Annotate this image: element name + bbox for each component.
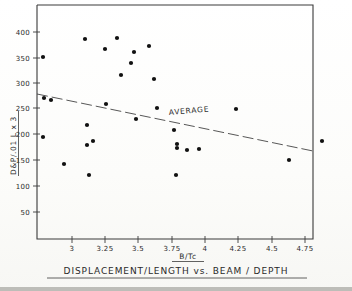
- data-point: [174, 173, 178, 177]
- x-tick-label: 4.75: [297, 245, 314, 253]
- average-trendline: [37, 94, 313, 151]
- x-tick-label: 4.25: [230, 245, 247, 253]
- data-point: [155, 106, 159, 110]
- x-tick-label: 3.25: [97, 245, 114, 253]
- data-point: [147, 44, 151, 48]
- x-tick-label: 3.75: [164, 245, 181, 253]
- data-point: [62, 162, 66, 166]
- y-tick-label: 400: [16, 29, 30, 37]
- chart-frame: [37, 5, 313, 239]
- y-axis-title: D&P/.01 L x 3: [9, 116, 18, 175]
- page-bottom-edge: [0, 287, 352, 291]
- y-tick-label: 100: [16, 183, 30, 191]
- data-point: [115, 36, 119, 40]
- y-tick-label: 250: [16, 105, 30, 113]
- data-point: [49, 98, 53, 102]
- chart-caption: DISPLACEMENT/LENGTH vs. BEAM / DEPTH: [64, 266, 289, 276]
- x-tick-label: 4.5: [266, 245, 278, 253]
- y-tick-label: 300: [16, 80, 30, 88]
- x-axis-title: B/Tc: [179, 252, 197, 261]
- x-tick-label: 4: [203, 245, 208, 253]
- data-point: [85, 123, 89, 127]
- data-point: [104, 102, 108, 106]
- average-label: AVERAGE: [168, 104, 209, 117]
- data-point: [91, 139, 95, 143]
- scanned-page: 400 350 300 250 200 150 100 50 D&P/.01 L…: [0, 0, 352, 291]
- data-point: [287, 158, 291, 162]
- data-point: [87, 173, 91, 177]
- data-point: [41, 55, 45, 59]
- x-tick-label: 3.5: [132, 245, 144, 253]
- data-point: [172, 128, 176, 132]
- data-point: [129, 61, 133, 65]
- y-tick-label: 50: [20, 209, 30, 217]
- data-point: [42, 96, 46, 100]
- chart-caption-group: DISPLACEMENT/LENGTH vs. BEAM / DEPTH: [47, 266, 307, 278]
- data-point: [103, 47, 107, 51]
- x-axis-title-group: B/Tc: [172, 252, 204, 262]
- data-point: [83, 37, 87, 41]
- data-point: [320, 139, 324, 143]
- data-point: [175, 142, 179, 146]
- scatter-chart: 400 350 300 250 200 150 100 50 D&P/.01 L…: [0, 0, 352, 291]
- data-point: [234, 107, 238, 111]
- y-axis-title-group: D&P/.01 L x 3: [9, 111, 19, 176]
- data-point: [85, 143, 89, 147]
- data-point: [197, 147, 201, 151]
- y-tick-label: 350: [16, 55, 30, 63]
- data-point: [41, 135, 45, 139]
- data-point: [185, 148, 189, 152]
- x-tick-label: 3: [70, 245, 75, 253]
- data-point: [175, 146, 179, 150]
- data-point: [134, 117, 138, 121]
- data-point: [119, 73, 123, 77]
- data-point: [132, 50, 136, 54]
- data-point: [152, 77, 156, 81]
